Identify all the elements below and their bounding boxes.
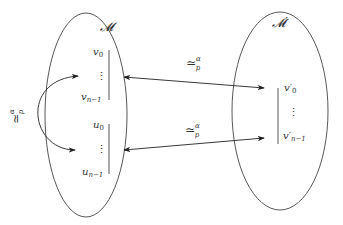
lower-relation-arrow	[124, 138, 264, 150]
v-n-minus-1-label: vn−1	[81, 91, 101, 104]
u-dots: ⋮	[96, 143, 107, 156]
set-m-prime-ellipse	[232, 12, 328, 210]
left-curved-relation-arrow	[38, 76, 78, 150]
v-prime-n-minus-1-label: v′n−1	[283, 130, 306, 143]
set-m-label: 𝓜	[100, 20, 117, 34]
set-m-ellipse	[45, 13, 127, 217]
upper-relation-arrow	[124, 77, 264, 88]
v-prime-dots: ⋮	[288, 106, 299, 119]
u-n-minus-1-label: un−1	[82, 166, 103, 179]
left-relation-label: ≃αp	[8, 109, 25, 124]
v0-prime-label: v′0	[284, 82, 296, 95]
diagram-canvas: 𝓜 𝓜′ v0 ⋮ vn−1 u0 ⋮ un−1 v′0 ⋮ v′n−1 ≃αp…	[0, 0, 343, 225]
lower-relation-label: ≃αp	[185, 122, 200, 139]
u0-label: u0	[93, 119, 104, 132]
v-dots: ⋮	[96, 70, 107, 83]
set-m-prime-label: 𝓜′	[272, 16, 289, 30]
v0-label: v0	[93, 46, 103, 59]
upper-relation-label: ≃αp	[186, 55, 201, 72]
